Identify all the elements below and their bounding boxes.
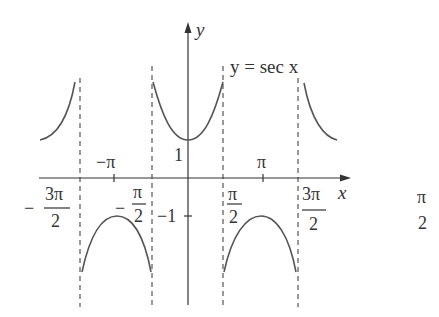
- x-tick-label-3pi-2: 3π 2: [302, 184, 326, 234]
- fraction-numerator: 3π: [302, 184, 320, 204]
- fraction-sign: −: [24, 198, 34, 218]
- sec-graph: y x y = sec x 1 −1 −π π − 3π 2 − π 2 π 2…: [0, 0, 439, 317]
- y-axis-arrow-icon: [185, 22, 192, 33]
- curve-label: y = sec x: [230, 56, 299, 77]
- x-axis-arrow-icon: [340, 175, 351, 182]
- fraction-denominator: 2: [309, 214, 318, 234]
- axes: [39, 28, 345, 305]
- x-tick-label-neg-3pi-2: − 3π 2: [24, 184, 70, 231]
- y-tick-label-neg-one: −1: [157, 206, 176, 226]
- fraction-numerator: 3π: [45, 184, 63, 204]
- fraction-numerator: π: [417, 187, 426, 207]
- fraction-numerator: π: [228, 184, 237, 204]
- fraction-denominator: 2: [229, 207, 238, 227]
- fraction-denominator: 2: [51, 211, 60, 231]
- x-tick-label-pi: π: [257, 152, 266, 172]
- x-tick-label-neg-pi-2: − π 2: [115, 182, 146, 226]
- fraction-numerator: π: [133, 182, 142, 202]
- y-tick-label-one: 1: [174, 145, 183, 165]
- y-axis-label: y: [194, 19, 205, 40]
- fraction-sign: −: [115, 198, 125, 218]
- x-tick-label-neg-pi: −π: [96, 152, 115, 172]
- x-axis-label: x: [337, 182, 347, 203]
- stray-fraction-label: π 2: [417, 187, 427, 233]
- asymptotes: [80, 66, 298, 307]
- fraction-denominator: 2: [134, 206, 143, 226]
- fraction-denominator: 2: [418, 213, 427, 233]
- branch-far-left: [40, 82, 75, 140]
- branch-far-right: [304, 83, 337, 140]
- x-tick-label-pi-2: π 2: [227, 184, 242, 227]
